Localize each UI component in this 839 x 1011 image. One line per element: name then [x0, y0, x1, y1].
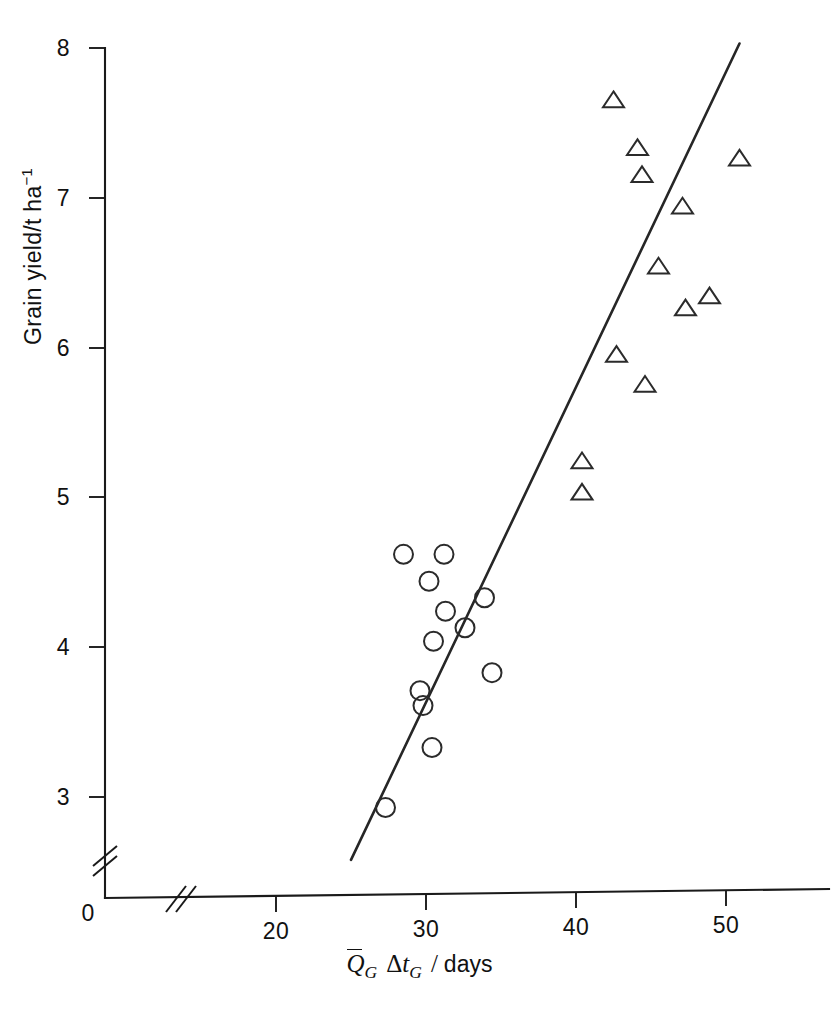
data-point-circle — [394, 545, 413, 564]
regression-line — [351, 44, 740, 860]
scatter-plot-svg — [0, 0, 839, 1011]
x-axis-title: QGΔtG/days — [0, 950, 839, 983]
data-point-triangle — [672, 198, 693, 214]
data-point-triangle — [675, 300, 696, 316]
origin-tick-label-0: 0 — [81, 900, 94, 927]
data-point-triangle — [699, 288, 720, 304]
x-tick-label-50: 50 — [713, 912, 739, 939]
data-point-triangle — [632, 166, 653, 182]
y-axis-title-exponent: −1 — [18, 168, 35, 185]
regression-line-path — [351, 44, 740, 860]
x-axis-title-t-subscript: G — [409, 962, 422, 982]
x-axis-title-q: Q — [347, 950, 365, 978]
data-point-circle — [423, 738, 442, 757]
data-point-circle — [420, 572, 439, 591]
data-point-circle — [424, 632, 443, 651]
data-point-triangle — [606, 346, 627, 362]
x-axis-title-separator: / — [429, 950, 440, 977]
y-tick-label-3: 3 — [34, 784, 70, 811]
x-axis-break-icon — [166, 886, 196, 912]
data-point-circle — [435, 545, 454, 564]
x-axis-title-unit: days — [444, 951, 493, 977]
data-point-triangle — [648, 258, 669, 274]
data-point-circle — [436, 602, 455, 621]
data-point-circle — [483, 663, 502, 682]
x-tick-label-30: 30 — [413, 916, 439, 943]
data-series-triangles — [572, 91, 751, 499]
y-axis-title-main: Grain yield/t ha — [20, 186, 46, 346]
x-tick-label-20: 20 — [263, 918, 289, 945]
data-point-triangle — [635, 376, 656, 392]
data-point-triangle — [572, 484, 593, 500]
y-ticks-group — [89, 48, 105, 797]
x-axis-title-q-subscript: G — [365, 962, 378, 982]
figure-container: 8 7 6 5 4 3 0 20 30 40 50 Grain yield/t … — [0, 0, 839, 1011]
data-point-triangle — [572, 452, 593, 468]
data-point-circle — [376, 798, 395, 817]
data-point-circle — [475, 588, 494, 607]
x-axis-line — [105, 889, 829, 898]
data-point-triangle — [627, 139, 648, 155]
data-point-triangle — [603, 91, 624, 107]
y-axis-title: Grain yield/t ha−1 — [18, 5, 47, 345]
x-axis-title-delta: Δ — [386, 950, 402, 977]
y-tick-label-5: 5 — [34, 484, 70, 511]
axes-group — [93, 48, 829, 912]
x-tick-label-40: 40 — [563, 914, 589, 941]
y-tick-label-4: 4 — [34, 634, 70, 661]
data-point-triangle — [729, 150, 750, 166]
